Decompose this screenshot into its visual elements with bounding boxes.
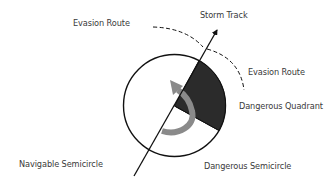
storm-track-label: Storm Track	[200, 10, 248, 20]
navigable-semicircle-label: Navigable Semicircle	[19, 159, 103, 169]
evasion-route-left-label: Evasion Route	[73, 18, 130, 28]
dangerous-semicircle-label: Dangerous Semicircle	[204, 161, 291, 171]
evasion-route-upper-path	[153, 27, 203, 47]
dangerous-quadrant-label: Dangerous Quadrant	[239, 101, 323, 111]
evasion-route-right-label: Evasion Route	[248, 67, 305, 77]
